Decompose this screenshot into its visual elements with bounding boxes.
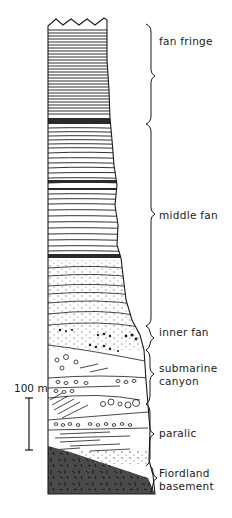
label-middle-fan: middle fan	[159, 209, 218, 221]
scale-bar-label: 100 m	[14, 382, 48, 394]
label-submarine-canyon-line1: submarine	[159, 362, 218, 374]
column-drawing	[0, 0, 232, 518]
bracket-middle-fan	[146, 124, 155, 326]
inner-fan-beds	[48, 260, 158, 352]
column-fill	[48, 15, 158, 495]
dark-band	[48, 118, 158, 124]
label-submarine-canyon-line2: canyon	[159, 375, 199, 387]
label-fan-fringe: fan fringe	[159, 35, 213, 47]
label-inner-fan: inner fan	[159, 326, 209, 338]
stratigraphic-column-figure: 100 m fan fringe middle fan inner fan su…	[0, 0, 232, 518]
label-fiordland-basement-line2: basement	[159, 480, 214, 492]
bracket-inner-fan	[146, 326, 154, 350]
label-fiordland-basement-line1: Fiordland	[159, 467, 210, 479]
scale-bar	[25, 398, 33, 450]
label-paralic: paralic	[159, 427, 197, 439]
bracket-fan-fringe	[146, 24, 155, 124]
